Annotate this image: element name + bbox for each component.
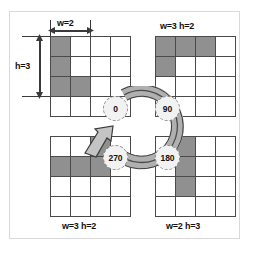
- angle-badge-0: 0: [103, 96, 128, 121]
- cell-2-3: [216, 177, 236, 197]
- cell-1-1: [71, 57, 91, 77]
- cell-3-3: [216, 97, 236, 117]
- cell-2-0: [156, 177, 176, 197]
- cell-1-0: [51, 57, 71, 77]
- cell-1-3: [216, 57, 236, 77]
- cell-3-1: [71, 197, 91, 217]
- cell-1-1: [176, 57, 196, 77]
- cell-0-1: [176, 37, 196, 57]
- cell-3-1: [176, 197, 196, 217]
- cell-3-2: [196, 97, 216, 117]
- angle-badge-180: 180: [155, 145, 180, 170]
- cell-0-2: [196, 137, 216, 157]
- cell-3-0: [156, 197, 176, 217]
- cell-3-3: [216, 197, 236, 217]
- angle-badge-270-label: 270: [108, 153, 122, 163]
- height-dimension-label: h=3: [15, 61, 30, 71]
- cell-1-3: [216, 157, 236, 177]
- cell-3-2: [91, 197, 111, 217]
- width-dimension-label: w=2: [57, 18, 74, 28]
- cell-2-2: [196, 77, 216, 97]
- cell-0-2: [91, 37, 111, 57]
- cell-1-0: [156, 57, 176, 77]
- cell-2-1: [176, 177, 196, 197]
- cell-3-0: [51, 97, 71, 117]
- cell-3-0: [51, 197, 71, 217]
- angle-badge-90-label: 90: [163, 104, 172, 114]
- cell-2-0: [51, 177, 71, 197]
- cell-0-3: [216, 37, 236, 57]
- angle-badge-180-label: 180: [160, 153, 174, 163]
- cell-2-0: [51, 77, 71, 97]
- cell-3-1: [71, 97, 91, 117]
- cell-0-1: [71, 37, 91, 57]
- cell-2-3: [111, 177, 131, 197]
- cell-1-3: [111, 57, 131, 77]
- diagram-canvas: w=2 h=3 w=3 h=2 w=3 h=2 w=2 h=3: [0, 0, 256, 254]
- cell-0-2: [196, 37, 216, 57]
- cell-0-0: [156, 37, 176, 57]
- cell-0-3: [216, 137, 236, 157]
- cell-2-1: [71, 177, 91, 197]
- top-right-label: w=3 h=2: [160, 21, 194, 31]
- cell-1-0: [51, 157, 71, 177]
- height-arrowheads: [34, 34, 46, 99]
- cell-0-0: [51, 137, 71, 157]
- cell-2-1: [71, 77, 91, 97]
- cell-1-2: [196, 157, 216, 177]
- cell-3-3: [111, 197, 131, 217]
- bottom-left-label: w=3 h=2: [62, 221, 96, 231]
- cell-0-3: [111, 37, 131, 57]
- bottom-right-label: w=2 h=3: [166, 221, 200, 231]
- cell-2-3: [216, 77, 236, 97]
- cell-1-2: [196, 57, 216, 77]
- cell-1-1: [71, 157, 91, 177]
- cell-2-2: [196, 177, 216, 197]
- cell-1-2: [91, 57, 111, 77]
- angle-badge-90: 90: [155, 96, 180, 121]
- angle-badge-270: 270: [103, 145, 128, 170]
- cell-2-2: [91, 177, 111, 197]
- cell-3-2: [196, 197, 216, 217]
- cell-0-0: [51, 37, 71, 57]
- angle-badge-0-label: 0: [113, 104, 118, 114]
